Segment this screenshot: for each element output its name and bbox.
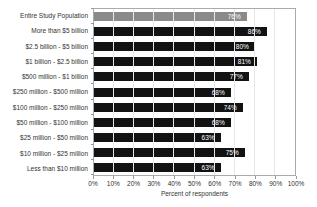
category-axis: Entire Study PopulationMore than $5 bill… bbox=[0, 8, 88, 176]
x-tick-label: 10% bbox=[107, 180, 120, 187]
bar: 80% bbox=[94, 42, 255, 51]
x-tick bbox=[235, 176, 236, 179]
bar-value-label: 77% bbox=[230, 72, 249, 81]
y-axis-tick bbox=[91, 53, 94, 54]
x-tick bbox=[153, 176, 154, 179]
y-axis-tick bbox=[91, 83, 94, 84]
y-axis-tick bbox=[91, 23, 94, 24]
bar-row: 74% bbox=[94, 100, 295, 115]
y-axis-tick bbox=[91, 68, 94, 69]
gridline bbox=[214, 9, 215, 175]
bar-value-label: 76% bbox=[228, 12, 247, 21]
x-axis: 0%10%20%30%40%50%60%70%80%90%100% bbox=[93, 176, 296, 190]
gridline bbox=[194, 9, 195, 175]
category-label: More than $5 billion bbox=[0, 23, 88, 38]
x-tick bbox=[255, 176, 256, 179]
x-tick-label: 0% bbox=[88, 180, 97, 187]
gridline bbox=[234, 9, 235, 175]
gridline bbox=[133, 9, 134, 175]
x-tick bbox=[214, 176, 215, 179]
y-axis-tick bbox=[91, 38, 94, 39]
bar: 68% bbox=[94, 88, 231, 97]
bar: 68% bbox=[94, 118, 231, 127]
category-label: $2.5 billion - $5 billion bbox=[0, 39, 88, 54]
y-axis-tick bbox=[91, 129, 94, 130]
y-axis-tick bbox=[91, 144, 94, 145]
category-label: $250 million - $500 million bbox=[0, 84, 88, 99]
bar-chart: Entire Study PopulationMore than $5 bill… bbox=[0, 0, 317, 207]
x-tick bbox=[93, 176, 94, 179]
x-tick bbox=[275, 176, 276, 179]
bar-row: 63% bbox=[94, 160, 295, 175]
x-tick bbox=[113, 176, 114, 179]
category-label: $500 million - $1 billion bbox=[0, 69, 88, 84]
x-axis-title: Percent of respondents bbox=[93, 190, 296, 197]
y-axis-tick bbox=[91, 114, 94, 115]
bar-row: 81% bbox=[94, 54, 295, 69]
x-tick-label: 100% bbox=[288, 180, 305, 187]
x-tick-label: 70% bbox=[229, 180, 242, 187]
x-tick bbox=[194, 176, 195, 179]
category-label: $10 million - $25 million bbox=[0, 145, 88, 160]
bar-row: 68% bbox=[94, 84, 295, 99]
x-tick-label: 90% bbox=[269, 180, 282, 187]
bar-value-label: 63% bbox=[202, 163, 221, 172]
bar: 77% bbox=[94, 72, 249, 81]
bars-container: 76%86%80%81%77%68%74%68%63%75%63% bbox=[94, 9, 295, 175]
gridline bbox=[274, 9, 275, 175]
bar-value-label: 86% bbox=[248, 27, 267, 36]
plot-area: 76%86%80%81%77%68%74%68%63%75%63% bbox=[93, 8, 296, 176]
bar: 76% bbox=[94, 12, 247, 21]
x-tick-label: 50% bbox=[188, 180, 201, 187]
y-axis-tick bbox=[91, 174, 94, 175]
bar-value-label: 75% bbox=[226, 148, 245, 157]
bar-row: 86% bbox=[94, 24, 295, 39]
bar-row: 76% bbox=[94, 9, 295, 24]
gridline bbox=[153, 9, 154, 175]
bar-row: 75% bbox=[94, 145, 295, 160]
bar: 81% bbox=[94, 57, 257, 66]
bar-row: 80% bbox=[94, 39, 295, 54]
bar: 86% bbox=[94, 27, 267, 36]
bar-row: 77% bbox=[94, 69, 295, 84]
bar: 74% bbox=[94, 103, 243, 112]
gridline bbox=[254, 9, 255, 175]
y-axis-tick bbox=[91, 159, 94, 160]
x-tick bbox=[296, 176, 297, 179]
bar-value-label: 63% bbox=[202, 133, 221, 142]
y-axis-tick bbox=[91, 99, 94, 100]
x-tick-label: 80% bbox=[249, 180, 262, 187]
category-label: Entire Study Population bbox=[0, 8, 88, 23]
bar-row: 68% bbox=[94, 115, 295, 130]
x-tick bbox=[174, 176, 175, 179]
x-tick-label: 30% bbox=[147, 180, 160, 187]
x-tick-label: 60% bbox=[208, 180, 221, 187]
category-label: $100 million - $250 million bbox=[0, 100, 88, 115]
y-axis-tick bbox=[91, 8, 94, 9]
category-label: Less than $10 million bbox=[0, 161, 88, 176]
x-tick-label: 20% bbox=[127, 180, 140, 187]
bar-row: 63% bbox=[94, 130, 295, 145]
x-tick-label: 40% bbox=[168, 180, 181, 187]
category-label: $1 billion - $2.5 billion bbox=[0, 54, 88, 69]
gridline bbox=[173, 9, 174, 175]
gridline bbox=[113, 9, 114, 175]
category-label: $50 million - $100 million bbox=[0, 115, 88, 130]
bar-value-label: 80% bbox=[236, 42, 255, 51]
category-label: $25 million - $50 million bbox=[0, 130, 88, 145]
x-tick bbox=[133, 176, 134, 179]
bar: 75% bbox=[94, 148, 245, 157]
